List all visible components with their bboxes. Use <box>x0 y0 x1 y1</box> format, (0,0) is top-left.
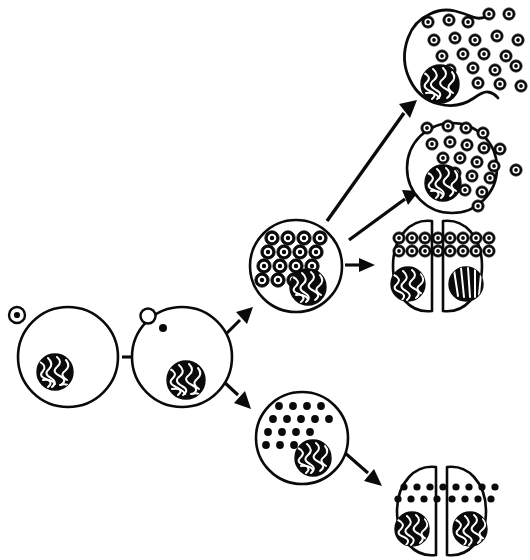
arrow-stage2-to-stage3b <box>223 381 251 409</box>
stage-7-division-with-provirus <box>394 467 498 556</box>
nucleus <box>37 354 73 390</box>
stage-4-budding-release <box>407 120 522 213</box>
nucleus <box>391 267 425 301</box>
nucleus <box>395 512 429 546</box>
nucleus <box>449 267 483 301</box>
empty-capsid-icon <box>141 309 156 324</box>
nucleus <box>425 165 461 201</box>
diagram-root: Viral infection pathways: productive (ly… <box>0 0 530 560</box>
arrow-stage3b-to-division <box>344 452 382 486</box>
daughter-cell-right <box>447 467 499 556</box>
stage-6-division-with-virions <box>391 221 495 312</box>
stage-3b-latent-infection <box>256 392 348 484</box>
stage-1-virion-attachment <box>9 307 118 407</box>
nucleus <box>167 361 205 399</box>
daughter-cell-left <box>391 221 444 312</box>
arrow-stage3a-to-division <box>345 258 375 272</box>
nucleus <box>290 269 326 305</box>
viral-infection-pathway-figure: Viral infection pathways: productive (ly… <box>0 0 530 560</box>
daughter-cell-left <box>394 467 446 556</box>
nucleus <box>421 65 459 103</box>
stage-2-virion-entry <box>132 307 232 407</box>
attached-virion-icon <box>9 307 25 323</box>
cell-membrane <box>18 307 118 407</box>
arrow-stage3a-to-lysis <box>327 100 417 221</box>
nucleus <box>295 440 331 476</box>
daughter-cell-right <box>443 221 495 312</box>
nucleus <box>453 512 487 546</box>
stage-3a-productive-replication <box>250 220 342 312</box>
viral-genome-dot <box>159 324 167 332</box>
arrow-stage2-to-stage3a <box>226 307 253 334</box>
stage-5-cell-lysis <box>404 8 527 106</box>
